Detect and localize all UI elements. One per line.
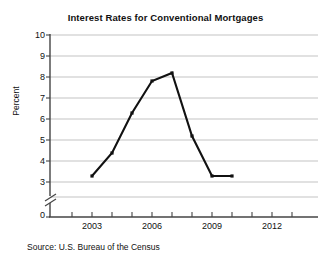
data-point-2009: [210, 174, 213, 177]
data-point-2004: [110, 151, 113, 154]
data-point-2003: [90, 174, 93, 177]
data-point-2010: [230, 174, 233, 177]
x-axis-ticks: [72, 212, 292, 217]
gridlines: [50, 35, 318, 197]
chart-container: Interest Rates for Conventional Mortgage…: [0, 0, 331, 265]
data-line-interest-rate: [92, 73, 232, 176]
data-point-markers: [90, 71, 233, 177]
data-point-2008: [190, 134, 193, 137]
data-point-2007: [170, 71, 173, 74]
data-point-2005: [130, 111, 133, 114]
data-point-2006: [150, 79, 153, 82]
source-note: Source: U.S. Bureau of the Census: [27, 242, 160, 252]
plot-area: [0, 0, 331, 265]
